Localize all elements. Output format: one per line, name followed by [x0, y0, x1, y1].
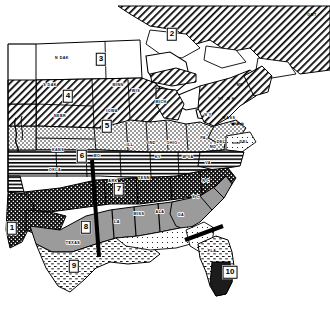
state-label-la: LA	[114, 220, 120, 224]
state-label-miss: MISS	[134, 212, 145, 216]
state-label-del: DEL	[217, 140, 226, 144]
maine-label: ME	[237, 83, 244, 87]
state-label-md: MD	[210, 145, 217, 149]
state-label-ala: ALA	[156, 210, 165, 214]
state-label-minn: MINN	[112, 83, 123, 87]
region-map-figure: 12345678910 N DAKMINNWISS DAKNEBRIOWAKAN…	[0, 0, 330, 324]
region-5-number-box: 5	[102, 120, 112, 133]
state-label-texas: TEXAS	[66, 241, 80, 245]
state-label-s-dak: S DAK	[43, 83, 57, 87]
state-label-wis: WIS	[132, 89, 140, 93]
region-1-number-box: 1	[7, 222, 17, 235]
state-label-ohio: OHIO	[166, 141, 177, 145]
state-label-ark: ARK	[108, 179, 117, 183]
rhode-island-label: R I	[237, 122, 243, 126]
region-9-number-box: 9	[69, 260, 79, 273]
state-label-okla: OKLA	[49, 168, 61, 172]
state-label-va: VA	[205, 161, 211, 165]
state-label-s-c: S C	[192, 195, 200, 199]
region-3-area	[36, 40, 142, 80]
state-label-fla: FLA	[208, 249, 217, 253]
delaware-leader-label: DEL	[240, 140, 249, 144]
appalachian-band	[198, 150, 244, 170]
state-label-n-y: N Y	[204, 113, 211, 117]
massachusetts-label: MASS	[223, 116, 236, 120]
state-label-ind: IND	[148, 141, 156, 145]
region-4-number-box: 4	[63, 90, 73, 103]
northeast-area	[198, 66, 272, 152]
region-7-number-box: 7	[114, 183, 124, 196]
region-6-number-box: 6	[77, 150, 87, 163]
state-label-ga: GA	[178, 213, 184, 217]
state-label-pa: PA	[200, 136, 206, 140]
state-label-mo: MO	[94, 154, 101, 158]
state-label-mich: MICH	[155, 100, 166, 104]
region-8-number-box: 8	[81, 221, 91, 234]
state-label-ill: ILL	[127, 143, 134, 147]
state-label-ky: KY	[155, 155, 161, 159]
ontario-label: ONT	[307, 13, 316, 17]
western-plains-area	[8, 80, 36, 152]
state-label-nebr: NEBR	[54, 114, 66, 118]
vermont-label: VT	[218, 97, 224, 101]
map-canvas	[0, 0, 330, 324]
state-label-tenn: TENN	[138, 176, 150, 180]
region-3-number-box: 3	[96, 53, 106, 66]
state-label-w-va: W VA	[182, 155, 193, 159]
state-label-iowa: IOWA	[106, 109, 118, 113]
state-label-n-c: N C	[202, 179, 210, 183]
region-10-number-box: 10	[223, 266, 238, 279]
state-label-kans: KANS	[52, 148, 64, 152]
state-label-n-dak: N DAK	[55, 56, 69, 60]
region-2-number-box: 2	[167, 28, 177, 41]
new-hampshire-label: N H	[227, 97, 235, 101]
